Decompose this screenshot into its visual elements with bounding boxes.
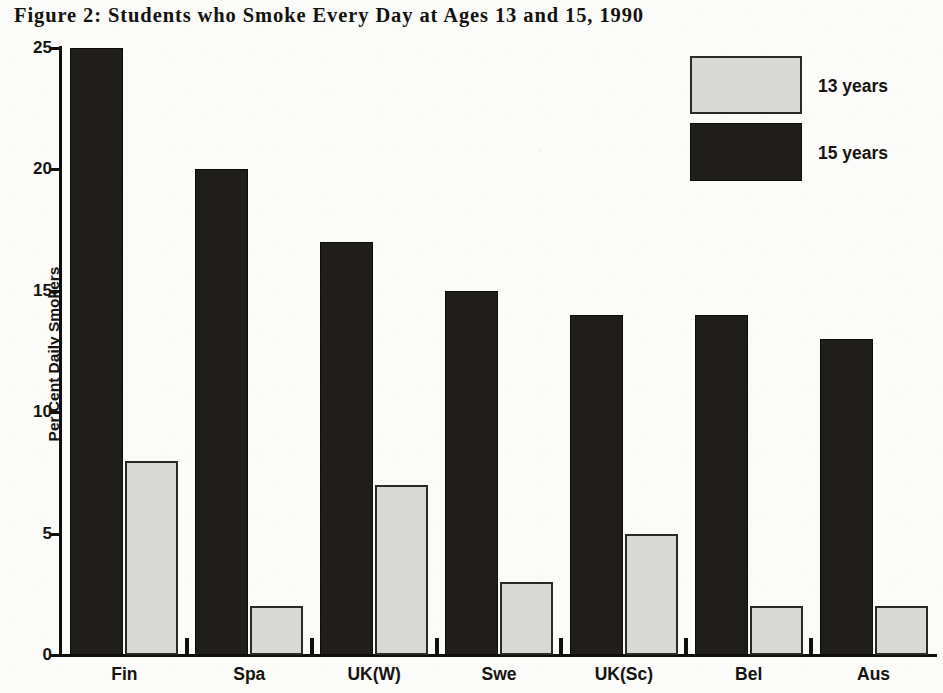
y-tick-label-10: 10 (0, 403, 52, 420)
bar-13-years-swe (500, 582, 553, 655)
bar-15-years-swe (445, 291, 498, 655)
x-tick-1 (185, 638, 189, 655)
x-tick-6 (809, 638, 813, 655)
legend-swatch-15-years (690, 123, 802, 181)
x-tick-label-bel: Bel (679, 664, 819, 684)
bar-13-years-bel (750, 606, 803, 655)
y-tick-label-0: 0 (0, 646, 52, 663)
legend-label-13-years: 13 years (818, 76, 888, 97)
x-tick-3 (435, 638, 439, 655)
bar-13-years-ukw (375, 485, 428, 655)
bar-15-years-ukw (320, 242, 373, 655)
y-tick-label-25: 25 (0, 39, 52, 56)
bar-13-years-aus (875, 606, 928, 655)
bar-15-years-bel (695, 315, 748, 655)
x-tick-label-swe: Swe (429, 664, 569, 684)
bar-13-years-fin (125, 461, 178, 655)
bar-chart-plot-area: Per Cent Daily Smokers 0510152025 FinSpa… (0, 0, 943, 693)
y-tick-label-5: 5 (0, 525, 52, 542)
legend-item-15-years[interactable]: 15 years (690, 123, 940, 181)
x-tick-label-aus: Aus (804, 664, 943, 684)
x-tick-label-spa: Spa (179, 664, 319, 684)
x-tick-label-uksc: UK(Sc) (554, 664, 694, 684)
chart-legend: 13 years 15 years (690, 56, 940, 188)
bar-15-years-aus (820, 339, 873, 655)
y-tick-label-20: 20 (0, 160, 52, 177)
x-tick-label-fin: Fin (54, 664, 194, 684)
legend-swatch-13-years (690, 56, 802, 114)
legend-label-15-years: 15 years (818, 143, 888, 164)
x-tick-label-ukw: UK(W) (304, 664, 444, 684)
bar-15-years-uksc (570, 315, 623, 655)
x-tick-4 (559, 638, 563, 655)
y-tick-label-15: 15 (0, 282, 52, 299)
bar-15-years-fin (70, 48, 123, 655)
y-axis-title: Per Cent Daily Smokers (45, 204, 63, 504)
x-axis-line (59, 654, 937, 657)
figure-page: Figure 2: Students who Smoke Every Day a… (0, 0, 943, 693)
x-tick-2 (310, 638, 314, 655)
x-tick-5 (684, 638, 688, 655)
legend-item-13-years[interactable]: 13 years (690, 56, 940, 114)
bar-15-years-spa (195, 169, 248, 655)
bar-13-years-spa (250, 606, 303, 655)
bar-13-years-uksc (625, 534, 678, 655)
